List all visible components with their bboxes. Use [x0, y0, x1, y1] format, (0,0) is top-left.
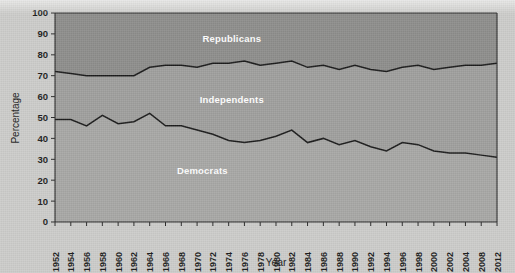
- y-tick-label-60: 60: [37, 91, 48, 102]
- y-tick-label-70: 70: [37, 70, 48, 81]
- x-tick-label-1952: 1952: [51, 252, 61, 272]
- y-tick-label-30: 30: [37, 154, 48, 165]
- chart-page: 0102030405060708090100 19521954195619581…: [0, 0, 515, 273]
- x-tick-label-2000: 2000: [429, 252, 439, 272]
- x-tick-label-1994: 1994: [382, 252, 392, 272]
- band-label-republicans: Republicans: [202, 33, 261, 44]
- x-tick-label-2004: 2004: [461, 252, 471, 272]
- x-tick-label-1960: 1960: [114, 252, 124, 272]
- x-tick-label-1966: 1966: [161, 252, 171, 272]
- y-tick-label-90: 90: [37, 28, 48, 39]
- x-tick-label-1986: 1986: [319, 252, 329, 272]
- stacked-area-chart: 0102030405060708090100 19521954195619581…: [0, 0, 515, 273]
- y-tick-label-0: 0: [43, 216, 48, 227]
- x-tick-label-1964: 1964: [145, 252, 155, 272]
- y-tick-label-20: 20: [37, 175, 48, 186]
- band-label-independents: Independents: [200, 94, 264, 105]
- x-tick-label-1998: 1998: [414, 252, 424, 272]
- y-axis-title: Percentage: [10, 92, 21, 144]
- x-tick-label-1954: 1954: [66, 252, 76, 272]
- band-label-democrats: Democrats: [177, 165, 228, 176]
- x-tick-label-1972: 1972: [208, 252, 218, 272]
- chart-bands: [55, 13, 497, 222]
- y-tick-label-50: 50: [37, 112, 48, 123]
- y-tick-label-80: 80: [37, 49, 48, 60]
- x-tick-label-1962: 1962: [129, 252, 139, 272]
- x-tick-label-1984: 1984: [303, 252, 313, 272]
- y-tick-label-100: 100: [32, 7, 48, 18]
- x-tick-label-1958: 1958: [98, 252, 108, 272]
- x-tick-label-1992: 1992: [366, 252, 376, 272]
- x-tick-label-1974: 1974: [224, 252, 234, 272]
- x-tick-label-2012: 2012: [493, 252, 503, 272]
- x-tick-label-1968: 1968: [177, 252, 187, 272]
- x-tick-label-1982: 1982: [287, 252, 297, 272]
- x-tick-label-2008: 2008: [477, 252, 487, 272]
- x-tick-label-1970: 1970: [193, 252, 203, 272]
- y-tick-label-40: 40: [37, 133, 48, 144]
- x-tick-label-1956: 1956: [82, 252, 92, 272]
- y-tick-label-10: 10: [37, 196, 48, 207]
- x-tick-label-1996: 1996: [398, 252, 408, 272]
- x-tick-label-1978: 1978: [256, 252, 266, 272]
- x-tick-label-1988: 1988: [335, 252, 345, 272]
- x-tick-label-2002: 2002: [445, 252, 455, 272]
- x-tick-label-1976: 1976: [240, 252, 250, 272]
- x-axis-title: Year: [265, 256, 287, 268]
- y-axis: 0102030405060708090100: [32, 7, 55, 227]
- x-tick-label-1990: 1990: [350, 252, 360, 272]
